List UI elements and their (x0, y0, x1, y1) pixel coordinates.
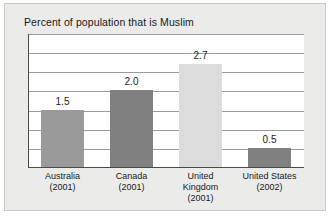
x-axis-line (28, 167, 304, 168)
y-axis-line (28, 34, 29, 168)
bar (41, 110, 84, 167)
bar (110, 90, 153, 167)
chart-title: Percent of population that is Muslim (24, 16, 194, 28)
category-label-line: (2002) (235, 182, 304, 193)
bar (179, 64, 222, 167)
bar-series: 1.52.02.70.5 (28, 34, 304, 168)
bar-value-label: 2.7 (194, 50, 208, 61)
category-label-line: (2001) (97, 182, 166, 193)
category-label-line: United (166, 171, 235, 182)
category-label: Canada(2001) (97, 171, 166, 193)
category-label-line: Canada (97, 171, 166, 182)
category-label-line: Kingdom (166, 182, 235, 193)
category-label: UnitedKingdom(2001) (166, 171, 235, 204)
category-label: United States(2002) (235, 171, 304, 193)
bar-value-label: 0.5 (263, 134, 277, 145)
plot-area: 1.52.02.70.5 (28, 34, 304, 168)
bar (248, 148, 291, 167)
category-label: Australia(2001) (28, 171, 97, 193)
bar-value-label: 1.5 (56, 96, 70, 107)
category-label-line: Australia (28, 171, 97, 182)
category-axis-labels: Australia(2001)Canada(2001)UnitedKingdom… (28, 171, 304, 211)
bar-slot (235, 34, 304, 167)
chart-figure: Percent of population that is Muslim 1.5… (4, 3, 326, 211)
category-label-line: United States (235, 171, 304, 182)
category-label-line: (2001) (28, 182, 97, 193)
bar-value-label: 2.0 (125, 76, 139, 87)
category-label-line: (2001) (166, 193, 235, 204)
bar-slot (97, 34, 166, 167)
